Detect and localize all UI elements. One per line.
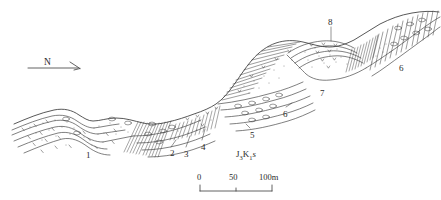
north-arrow [28, 62, 80, 70]
unit-label-5: 5 [250, 131, 255, 140]
scale-tick-50: 50 [229, 173, 238, 182]
unit-label-1: 1 [86, 151, 91, 160]
north-label: N [44, 58, 51, 68]
stratigraphic-unit-label: J3K1s [236, 150, 256, 161]
geological-cross-section-figure: N 1 2 3 4 5 6 7 8 6 J3K1s 0 50 100m [0, 0, 441, 200]
unit-label-6-center: 6 [283, 110, 288, 119]
clast-ovals-right [391, 18, 432, 46]
unit-label-2: 2 [170, 149, 175, 158]
cross-section-drawing [0, 0, 441, 200]
right-plateau-fold [287, 27, 379, 80]
unit-label-4: 4 [201, 143, 206, 152]
scale-tick-100m: 100m [259, 173, 278, 182]
scale-bar [200, 185, 272, 191]
strat-member: s [253, 149, 257, 159]
left-anticline-beds [12, 115, 133, 155]
unit-label-8: 8 [328, 18, 333, 27]
clast-ovals-left [63, 117, 132, 135]
right-slope-beds [370, 11, 438, 70]
scale-tick-0: 0 [197, 173, 201, 182]
unit-label-7: 7 [320, 89, 325, 98]
unit-label-3: 3 [184, 150, 189, 159]
unit-label-6-right: 6 [399, 64, 404, 73]
hachure-band-unit2 [124, 121, 171, 157]
